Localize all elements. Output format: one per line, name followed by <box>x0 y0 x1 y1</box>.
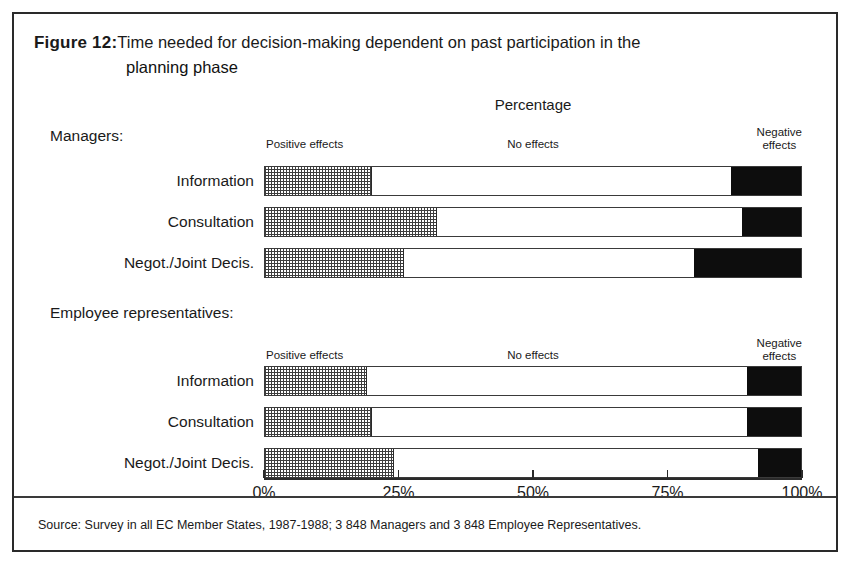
segment-neutral <box>404 249 693 277</box>
row-label-employee-representatives-negotiation: Negot./Joint Decis. <box>24 454 254 472</box>
group-heading-managers: Managers: <box>50 127 123 145</box>
row-label-employee-representatives-consultation: Consultation <box>24 413 254 431</box>
segment-neutral <box>372 408 747 436</box>
chart-plot-area: Percentage Managers: Positive effects No… <box>14 14 836 550</box>
legend-no-effects: No effects <box>507 138 559 151</box>
group-heading-employee-representatives: Employee representatives: <box>50 304 234 322</box>
legend-negative-effects-line2: effects <box>757 139 802 152</box>
segment-positive <box>265 208 437 236</box>
row-label-managers-negotiation: Negot./Joint Decis. <box>24 254 254 272</box>
row-label-managers-consultation: Consultation <box>24 213 254 231</box>
segment-positive <box>265 367 367 395</box>
segment-positive <box>265 167 372 195</box>
segment-negative <box>747 367 801 395</box>
axis-line <box>264 478 802 480</box>
legend-positive-effects: Positive effects <box>266 138 343 151</box>
axis-tick-label: 0% <box>252 484 275 502</box>
axis-tick <box>532 470 534 478</box>
segment-positive <box>265 408 372 436</box>
segment-positive <box>265 249 404 277</box>
source-note: Source: Survey in all EC Member States, … <box>38 518 820 532</box>
segment-negative <box>731 167 801 195</box>
row-label-managers-information: Information <box>24 172 254 190</box>
legend-negative-effects-line1: Negative <box>757 337 802 350</box>
legend-negative-effects: Negative effects <box>757 337 802 363</box>
legend-no-effects: No effects <box>507 349 559 362</box>
axis-tick <box>801 470 803 478</box>
segment-negative <box>694 249 801 277</box>
legend-positive-effects: Positive effects <box>266 349 343 362</box>
legend-negative-effects-line2: effects <box>757 350 802 363</box>
segment-neutral <box>437 208 743 236</box>
segment-legend-managers: Positive effects No effects Negative eff… <box>264 119 802 153</box>
segment-neutral <box>372 167 731 195</box>
axis-tick <box>667 470 669 478</box>
axis-tick-label: 100% <box>782 484 823 502</box>
legend-negative-effects: Negative effects <box>757 126 802 152</box>
row-label-employee-representatives-information: Information <box>24 372 254 390</box>
bar-managers-information <box>264 166 802 196</box>
segment-neutral <box>367 367 748 395</box>
bar-managers-negotiation <box>264 248 802 278</box>
axis-ticks <box>264 470 802 478</box>
axis-tick <box>263 470 265 478</box>
axis-tick-label: 25% <box>382 484 414 502</box>
segment-legend-employee-representatives: Positive effects No effects Negative eff… <box>264 330 802 364</box>
axis-tick-label: 50% <box>517 484 549 502</box>
figure-frame: Figure 12:Time needed for decision-makin… <box>12 12 838 552</box>
footer-divider <box>14 496 836 498</box>
segment-negative <box>747 408 801 436</box>
legend-negative-effects-line1: Negative <box>757 126 802 139</box>
axis-tick-label: 75% <box>651 484 683 502</box>
segment-negative <box>742 208 801 236</box>
axis-tick <box>398 470 400 478</box>
bar-employee-representatives-consultation <box>264 407 802 437</box>
bar-managers-consultation <box>264 207 802 237</box>
bar-employee-representatives-information <box>264 366 802 396</box>
percentage-axis-title: Percentage <box>264 96 802 113</box>
